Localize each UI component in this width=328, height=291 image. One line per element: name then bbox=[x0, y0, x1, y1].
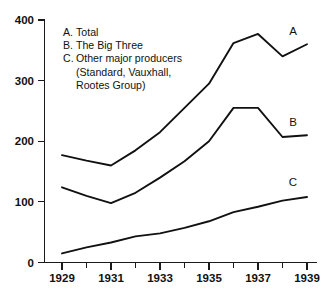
x-tick-label-1933: 1933 bbox=[147, 272, 173, 284]
y-tick-label-100: 100 bbox=[15, 196, 34, 208]
series-line-c bbox=[62, 197, 307, 253]
x-tick-label-1929: 1929 bbox=[49, 272, 75, 284]
legend-key-a: A. bbox=[63, 26, 76, 39]
legend-key-c: C. bbox=[63, 52, 76, 65]
series-line-b bbox=[62, 108, 307, 203]
y-tick-label-200: 200 bbox=[15, 135, 34, 147]
y-tick-label-0: 0 bbox=[28, 257, 34, 269]
y-tick-label-400: 400 bbox=[15, 14, 34, 26]
legend-item-c: C. Other major producers bbox=[63, 52, 213, 65]
chart-figure: 0100200300400 192919311933193519371939 A… bbox=[0, 0, 328, 291]
legend-label-c-line3: Rootes Group) bbox=[63, 79, 213, 92]
x-tick-label-1939: 1939 bbox=[294, 272, 320, 284]
x-axis-ticks bbox=[62, 263, 307, 270]
series-end-label-b: B bbox=[289, 116, 297, 128]
series-end-label-c: C bbox=[289, 176, 297, 188]
x-tick-label-1935: 1935 bbox=[196, 272, 222, 284]
legend-key-b: B. bbox=[63, 39, 76, 52]
legend-label-a: Total bbox=[76, 26, 213, 39]
y-axis-tick-labels: 0100200300400 bbox=[15, 14, 34, 269]
legend: A. Total B. The Big Three C. Other major… bbox=[63, 26, 213, 92]
legend-item-b: B. The Big Three bbox=[63, 39, 213, 52]
series-end-label-a: A bbox=[289, 25, 297, 37]
x-axis-tick-labels: 192919311933193519371939 bbox=[49, 272, 320, 284]
y-axis-ticks bbox=[38, 20, 45, 263]
legend-label-c-line2: (Standard, Vauxhall, bbox=[63, 66, 213, 79]
x-tick-label-1937: 1937 bbox=[245, 272, 271, 284]
legend-label-b: The Big Three bbox=[76, 39, 213, 52]
legend-label-c: Other major producers bbox=[76, 52, 213, 65]
legend-item-a: A. Total bbox=[63, 26, 213, 39]
x-tick-label-1931: 1931 bbox=[98, 272, 124, 284]
y-tick-label-300: 300 bbox=[15, 75, 34, 87]
